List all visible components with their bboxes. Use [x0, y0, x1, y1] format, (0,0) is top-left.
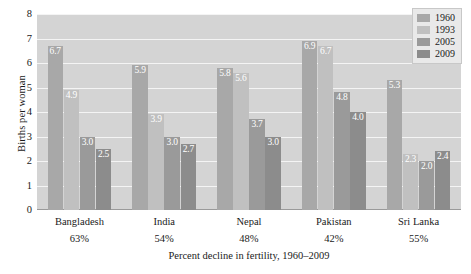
bar-india-2005: 3.0	[164, 137, 180, 211]
bar-value-label: 2.4	[435, 152, 451, 162]
y-axis-tick-labels: 012345678	[16, 14, 32, 210]
bar-group-nepal: 5.85.63.73.0	[207, 14, 292, 210]
y-tick-1: 1	[16, 180, 32, 191]
legend-label: 2005	[435, 37, 455, 47]
legend-item-2005: 2005	[417, 36, 455, 48]
y-tick-8: 8	[16, 9, 32, 20]
bar-india-1993: 3.9	[148, 114, 164, 210]
bar-sri-lanka-1960: 5.3	[387, 80, 403, 210]
y-tick-6: 6	[16, 58, 32, 69]
bar-value-label: 6.7	[48, 47, 64, 57]
bar-value-label: 4.0	[350, 113, 366, 123]
bar-bangladesh-2009: 2.5	[96, 149, 112, 210]
category-percent-pakistan: 42%	[291, 233, 376, 244]
plot-area: 6.74.93.02.55.93.93.02.75.85.63.73.06.96…	[37, 14, 461, 210]
bar-value-label: 3.0	[265, 138, 281, 148]
legend-label: 2009	[435, 49, 455, 59]
fertility-bar-chart: Births per woman 012345678 6.74.93.02.55…	[0, 0, 471, 274]
bar-value-label: 3.0	[80, 138, 96, 148]
bar-india-2009: 2.7	[181, 144, 197, 210]
bar-pakistan-1993: 6.7	[318, 46, 334, 210]
bar-value-label: 6.9	[302, 42, 318, 52]
x-axis-caption: Percent decline in fertility, 1960–2009	[37, 250, 461, 261]
category-percent-india: 54%	[122, 233, 207, 244]
bars: 5.93.93.02.7	[122, 14, 207, 210]
y-tick-0: 0	[16, 205, 32, 216]
bar-value-label: 5.6	[233, 74, 249, 84]
legend-item-1993: 1993	[417, 24, 455, 36]
chart-legend: 1960199320052009	[412, 8, 462, 64]
bars: 6.74.93.02.5	[37, 14, 122, 210]
bar-pakistan-2005: 4.8	[334, 92, 350, 210]
bar-value-label: 5.3	[387, 81, 403, 91]
bar-nepal-1993: 5.6	[233, 73, 249, 210]
legend-swatch-icon	[417, 14, 430, 22]
y-tick-4: 4	[16, 107, 32, 118]
y-tick-3: 3	[16, 131, 32, 142]
bar-pakistan-1960: 6.9	[302, 41, 318, 210]
bar-value-label: 5.8	[217, 69, 233, 79]
bar-group-bangladesh: 6.74.93.02.5	[37, 14, 122, 210]
bar-group-pakistan: 6.96.74.84.0	[291, 14, 376, 210]
category-percent-bangladesh: 63%	[37, 233, 122, 244]
bar-sri-lanka-2005: 2.0	[419, 161, 435, 210]
bar-value-label: 5.9	[132, 66, 148, 76]
legend-swatch-icon	[417, 38, 430, 46]
bar-group-india: 5.93.93.02.7	[122, 14, 207, 210]
bar-nepal-2009: 3.0	[265, 137, 281, 211]
bar-nepal-2005: 3.7	[249, 119, 265, 210]
legend-item-2009: 2009	[417, 48, 455, 60]
bar-bangladesh-2005: 3.0	[80, 137, 96, 211]
category-percent-nepal: 48%	[207, 233, 292, 244]
bar-value-label: 2.0	[419, 162, 435, 172]
category-label-bangladesh: Bangladesh	[37, 216, 122, 227]
bar-sri-lanka-1993: 2.3	[403, 154, 419, 210]
bar-pakistan-2009: 4.0	[350, 112, 366, 210]
bar-value-label: 6.7	[318, 47, 334, 57]
bars: 5.85.63.73.0	[207, 14, 292, 210]
bar-value-label: 2.5	[96, 150, 112, 160]
bar-value-label: 3.9	[148, 115, 164, 125]
category-label-india: India	[122, 216, 207, 227]
bar-value-label: 4.8	[334, 93, 350, 103]
legend-swatch-icon	[417, 50, 430, 58]
bars: 6.96.74.84.0	[291, 14, 376, 210]
y-tick-5: 5	[16, 82, 32, 93]
y-tick-2: 2	[16, 156, 32, 167]
category-percent-sri-lanka: 55%	[376, 233, 461, 244]
legend-label: 1993	[435, 25, 455, 35]
bar-nepal-1960: 5.8	[217, 68, 233, 210]
category-label-sri-lanka: Sri Lanka	[376, 216, 461, 227]
legend-label: 1960	[435, 13, 455, 23]
y-tick-7: 7	[16, 33, 32, 44]
bar-value-label: 3.7	[249, 120, 265, 130]
legend-item-1960: 1960	[417, 12, 455, 24]
bar-value-label: 2.3	[403, 155, 419, 165]
bar-india-1960: 5.9	[132, 65, 148, 210]
bar-bangladesh-1960: 6.7	[48, 46, 64, 210]
bar-value-label: 4.9	[64, 91, 80, 101]
category-label-nepal: Nepal	[207, 216, 292, 227]
bar-sri-lanka-2009: 2.4	[435, 151, 451, 210]
bar-value-label: 2.7	[181, 145, 197, 155]
bar-value-label: 3.0	[164, 138, 180, 148]
legend-swatch-icon	[417, 26, 430, 34]
category-label-pakistan: Pakistan	[291, 216, 376, 227]
bar-bangladesh-1993: 4.9	[64, 90, 80, 210]
